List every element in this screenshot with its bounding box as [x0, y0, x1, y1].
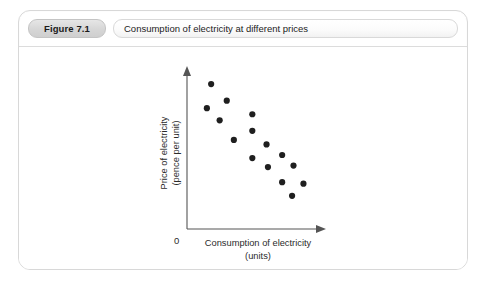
data-point	[300, 181, 306, 187]
data-point	[265, 164, 271, 170]
data-point	[289, 193, 295, 199]
figure-title-bar: Consumption of electricity at different …	[113, 19, 458, 38]
data-point	[279, 179, 285, 185]
data-point	[217, 117, 223, 123]
figure-body: 0 Price of electricity (pence per unit) …	[19, 48, 467, 269]
figure-title: Consumption of electricity at different …	[124, 23, 308, 34]
x-axis-arrow-icon	[316, 225, 326, 233]
data-point	[290, 162, 296, 168]
figure-number-badge: Figure 7.1	[28, 19, 106, 38]
scatter-chart: 0 Price of electricity (pence per unit) …	[19, 48, 467, 270]
data-point	[204, 105, 210, 111]
data-point	[279, 152, 285, 158]
origin-label: 0	[174, 235, 179, 246]
y-axis-label-line2: (pence per unit)	[171, 120, 181, 185]
x-axis-label-line1: Consumption of electricity	[205, 238, 312, 248]
figure-header: Figure 7.1 Consumption of electricity at…	[19, 11, 467, 47]
data-point	[249, 128, 255, 134]
data-point	[208, 81, 214, 87]
data-point	[249, 111, 255, 117]
x-axis-label-line2: (units)	[245, 251, 271, 261]
data-point	[263, 141, 269, 147]
data-point-group	[204, 81, 307, 199]
chart-svg: 0 Price of electricity (pence per unit) …	[19, 48, 467, 270]
data-point	[224, 98, 230, 104]
data-point	[249, 155, 255, 161]
y-axis-label-line1: Price of electricity	[159, 116, 169, 189]
figure-number-label: Figure 7.1	[44, 23, 90, 34]
data-point	[231, 137, 237, 143]
y-axis-arrow-icon	[183, 66, 191, 76]
figure-card: Figure 7.1 Consumption of electricity at…	[18, 10, 468, 270]
